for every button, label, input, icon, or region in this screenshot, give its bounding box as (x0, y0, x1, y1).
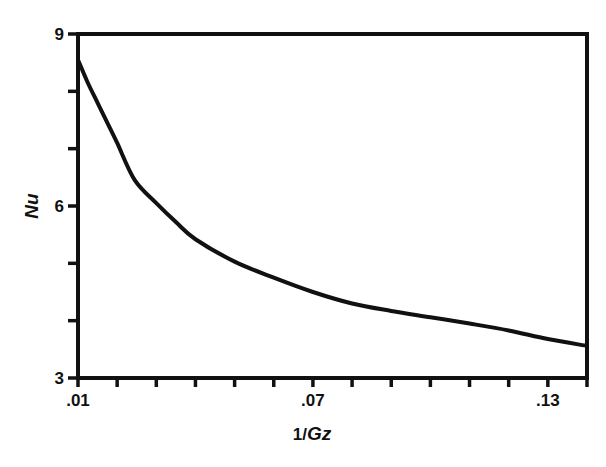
nu-curve (78, 60, 587, 346)
x-tick-label: .13 (536, 391, 560, 410)
y-tick-label: 9 (55, 25, 64, 44)
x-axis-title: 1/Gz (293, 423, 332, 444)
y-axis-tick-labels: 369 (55, 25, 64, 388)
x-tick-label: .01 (66, 391, 90, 410)
x-tick-label: .07 (301, 391, 325, 410)
x-axis-tick-labels: .01.07.13 (66, 391, 559, 410)
x-axis-title-prefix: 1/ (293, 425, 307, 444)
plot-frame (78, 34, 587, 378)
y-axis-title: Nu (21, 193, 42, 219)
plot-border (78, 34, 587, 378)
y-tick-label: 3 (55, 369, 64, 388)
x-axis-title-gz: Gz (307, 423, 332, 444)
y-tick-label: 6 (55, 197, 64, 216)
nu-vs-inverse-graetz-chart: .01.07.13 369 1/Gz Nu (0, 0, 606, 467)
